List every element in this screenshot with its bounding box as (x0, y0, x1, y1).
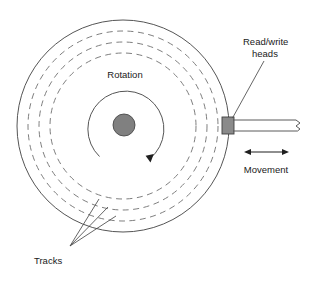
disk-platter-diagram: Rotation Read/write heads Movement Track… (0, 0, 322, 281)
read-write-heads-label-line2: heads (252, 48, 278, 59)
read-write-heads-leader (233, 61, 265, 118)
diagram-canvas: Rotation Read/write heads Movement Track… (0, 0, 322, 281)
read-write-head-block (222, 117, 234, 134)
rotation-arrowhead (146, 154, 154, 163)
rotation-label: Rotation (107, 69, 142, 80)
read-write-heads-label-line1: Read/write (243, 36, 288, 47)
actuator-arm (233, 120, 300, 131)
movement-arrowhead-right (282, 149, 289, 155)
movement-label: Movement (244, 164, 289, 175)
tracks-leader-1 (70, 199, 99, 246)
spindle-hub (113, 114, 135, 136)
movement-arrowhead-left (244, 149, 251, 155)
tracks-label: Tracks (34, 255, 62, 266)
tracks-leader-2 (70, 207, 108, 246)
